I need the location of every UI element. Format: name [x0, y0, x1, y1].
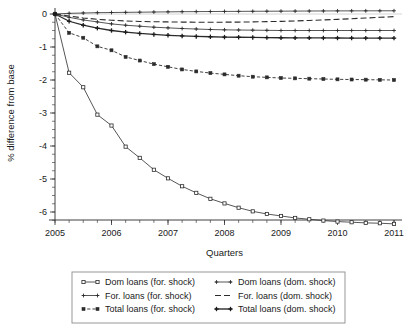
axis-titles: Quarters% difference from base — [5, 64, 243, 258]
legend-item-tot_for[interactable]: Total loans (for. shock) — [82, 304, 195, 314]
chart-legend: Dom loans (for. shock)For. loans (for. s… — [72, 272, 345, 323]
y-tick-label: -5 — [39, 174, 47, 184]
legend-label-tot_dom: Total loans (dom. shock) — [238, 304, 336, 314]
x-tick-label: 2007 — [158, 228, 178, 238]
chart-figure: 2005200620072008200920102011 0-1-2-3-4-5… — [0, 0, 406, 335]
series-for_dom — [55, 14, 394, 22]
y-tick-label: -1 — [39, 42, 47, 52]
line-chart: 2005200620072008200920102011 0-1-2-3-4-5… — [0, 0, 406, 335]
series-line — [55, 14, 394, 22]
y-tick-label: -3 — [39, 108, 47, 118]
y-tick-label: -6 — [39, 207, 47, 217]
legend-item-dom_for[interactable]: Dom loans (for. shock) — [82, 277, 195, 287]
legend-item-for_dom[interactable]: For. loans (dom. shock) — [215, 291, 332, 301]
x-tick-label: 2005 — [45, 228, 65, 238]
x-tick-label: 2006 — [101, 228, 121, 238]
plot-frame — [49, 8, 402, 220]
legend-label-dom_dom: Dom loans (dom. shock) — [238, 277, 336, 287]
legend-label-dom_for: Dom loans (for. shock) — [105, 277, 195, 287]
series-tot_dom — [53, 12, 396, 41]
legend-item-tot_dom[interactable]: Total loans (dom. shock) — [214, 304, 335, 314]
y-axis-title: % difference from base — [5, 64, 16, 162]
legend-label-tot_for: Total loans (for. shock) — [105, 304, 195, 314]
x-tick-label: 2008 — [214, 228, 234, 238]
series-dom_for — [53, 12, 395, 225]
legend-label-for_dom: For. loans (dom. shock) — [238, 291, 332, 301]
series-dom_dom — [53, 9, 396, 16]
y-tick-label: 0 — [42, 9, 47, 19]
series-markers — [53, 12, 396, 41]
series-line — [55, 14, 394, 80]
x-tick-label: 2010 — [327, 228, 347, 238]
legend-item-for_for[interactable]: For. loans (for. shock) — [82, 291, 192, 301]
series-layer — [53, 9, 396, 226]
legend-item-dom_dom[interactable]: Dom loans (dom. shock) — [215, 277, 336, 287]
x-axis-title: Quarters — [206, 247, 243, 258]
series-markers — [53, 12, 395, 225]
y-tick-label: -2 — [39, 75, 47, 85]
y-tick-label: -4 — [39, 141, 47, 151]
x-tick-label: 2009 — [271, 228, 291, 238]
x-tick-label: 2011 — [384, 228, 403, 238]
legend-label-for_for: For. loans (for. shock) — [105, 291, 192, 301]
series-line — [55, 14, 394, 224]
series-line — [55, 14, 394, 38]
y-axis: 0-1-2-3-4-5-6 — [39, 9, 55, 220]
